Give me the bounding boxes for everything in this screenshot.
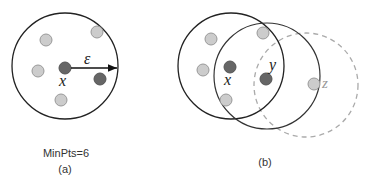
neighbor-point — [205, 33, 217, 45]
core-neighbor-point — [94, 73, 106, 85]
panel-b-label: (b) — [258, 156, 271, 168]
point-x-label: x — [58, 72, 66, 89]
border-point-z — [308, 78, 320, 90]
neighbor-point — [55, 94, 67, 106]
neighbor-point — [32, 65, 44, 77]
panel-b: x y z (b) — [178, 13, 358, 168]
dbscan-diagram: ε x MinPts=6 (a) x y z (b) — [0, 0, 367, 188]
epsilon-label: ε — [84, 50, 91, 67]
neighbor-point — [220, 94, 232, 106]
neighbor-point — [91, 26, 103, 38]
neighbor-point — [40, 34, 52, 46]
panel-a: ε x MinPts=6 (a) — [12, 13, 118, 175]
minpts-caption: MinPts=6 — [43, 147, 89, 159]
point-x-label: x — [223, 71, 231, 88]
z-neighborhood-circle — [254, 33, 358, 137]
neighbor-point — [257, 27, 269, 39]
neighbor-point — [197, 64, 209, 76]
panel-a-label: (a) — [58, 163, 71, 175]
point-z-label: z — [321, 75, 328, 91]
point-y-label: y — [267, 56, 277, 74]
core-point-y — [260, 73, 272, 85]
